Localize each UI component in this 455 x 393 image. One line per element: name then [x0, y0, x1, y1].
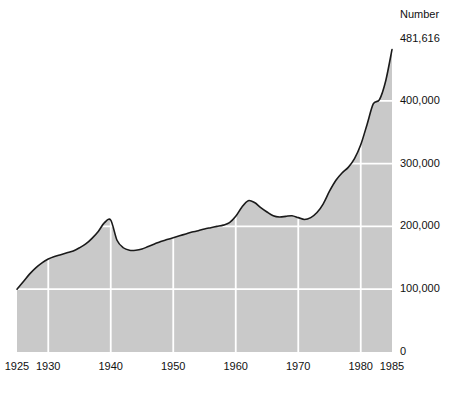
y-axis-tick-label: 100,000: [400, 282, 440, 294]
x-axis-tick-label: 1970: [284, 360, 312, 372]
x-axis-tick-label: 1925: [3, 360, 31, 372]
x-axis-tick-label: 1985: [378, 360, 406, 372]
area-chart-plot: [0, 0, 455, 393]
unit-label: Number: [400, 8, 439, 20]
area-fill: [17, 50, 392, 352]
y-axis-tick-label: 200,000: [400, 219, 440, 231]
x-axis-tick-label: 1950: [159, 360, 187, 372]
x-axis-tick-label: 1980: [347, 360, 375, 372]
x-axis-tick-label: 1940: [97, 360, 125, 372]
chart-container: Number 481,616 0100,000200,000300,000400…: [0, 0, 455, 393]
y-axis-tick-label: 0: [400, 345, 406, 357]
x-axis-tick-label: 1960: [222, 360, 250, 372]
x-axis-tick-label: 1930: [34, 360, 62, 372]
y-axis-tick-label: 400,000: [400, 94, 440, 106]
y-axis-tick-label: 300,000: [400, 157, 440, 169]
chart-area-fill-group: [17, 50, 392, 352]
top-value-annotation: 481,616: [400, 32, 440, 44]
